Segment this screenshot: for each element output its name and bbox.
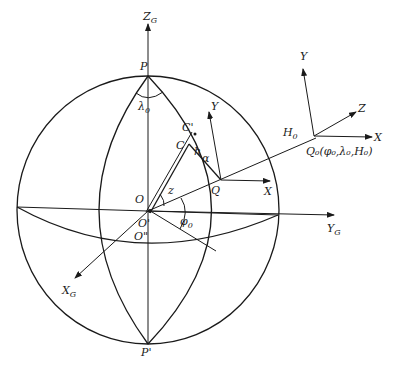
frame-y-axis	[303, 69, 314, 136]
p-prime-label: P'	[140, 346, 151, 359]
frame-x-axis	[314, 136, 372, 137]
h-label: h	[194, 145, 201, 158]
local-y-label: Y	[211, 100, 220, 113]
o-label: O	[135, 193, 144, 206]
oc-line-2	[146, 132, 192, 212]
frame-x-label: X	[373, 131, 383, 144]
frame-y-label: Y	[300, 50, 309, 63]
xg-label: XG	[61, 284, 77, 299]
q-label: Q	[211, 184, 220, 197]
sphere-diagram: ZG P λ0 O O' O" z φ0 Q C C' h α Y X YG X…	[0, 0, 394, 370]
o-dprime-label: O"	[134, 230, 148, 243]
lambda0-arc	[136, 92, 163, 98]
origin-point	[148, 209, 152, 213]
o-prime-label: O'	[138, 217, 150, 230]
local-x-axis	[221, 180, 270, 181]
local-y-axis	[209, 112, 221, 180]
q0-label: Q₀(φ₀,λ₀,H₀)	[306, 145, 373, 158]
meridian-right	[148, 76, 212, 344]
h0-label: H0	[282, 126, 298, 141]
frame-z-label: Z	[357, 102, 366, 115]
p-label: P	[139, 60, 148, 73]
normal-line	[148, 138, 316, 211]
c-prime-label: C'	[182, 121, 193, 134]
z-label: z	[167, 184, 174, 197]
yg-axis	[148, 211, 334, 215]
zg-label: ZG	[142, 10, 158, 25]
local-x-label: X	[263, 185, 273, 198]
phi0-label: φ0	[180, 215, 193, 230]
c-prime-point	[194, 133, 197, 136]
frame-z-axis	[314, 112, 356, 136]
yg-label: YG	[327, 222, 341, 237]
alpha-label: α	[202, 152, 210, 165]
c-label: C	[176, 139, 185, 152]
